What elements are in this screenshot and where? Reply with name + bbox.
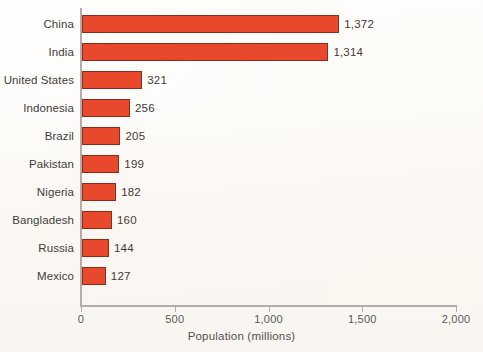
category-label: United States xyxy=(4,74,74,86)
x-axis-tick xyxy=(81,306,82,312)
bar-chart-plot-area: China1,372India1,314United States321Indo… xyxy=(0,0,483,352)
bar-value-label: 1,314 xyxy=(333,46,363,58)
bar-row: Bangladesh160 xyxy=(0,206,483,234)
bar xyxy=(82,267,106,285)
x-axis-tick xyxy=(456,306,457,312)
bar-row: China1,372 xyxy=(0,10,483,38)
bar xyxy=(82,99,130,117)
category-label: Bangladesh xyxy=(12,214,74,226)
bar xyxy=(82,183,116,201)
category-label: Brazil xyxy=(45,130,74,142)
x-axis-tick-label: 500 xyxy=(165,313,184,325)
x-axis-tick xyxy=(362,306,363,312)
x-axis-tick-label: 1,500 xyxy=(348,313,377,325)
category-label: India xyxy=(49,46,74,58)
chart-page: China1,372India1,314United States321Indo… xyxy=(0,0,483,352)
bar-value-label: 321 xyxy=(147,74,167,86)
bar-value-label: 144 xyxy=(114,242,134,254)
bar-value-label: 205 xyxy=(125,130,145,142)
bar xyxy=(82,127,120,145)
x-axis-tick-label: 2,000 xyxy=(442,313,471,325)
category-label: Indonesia xyxy=(23,102,74,114)
x-axis-tick-label: 0 xyxy=(78,313,84,325)
bar-row: India1,314 xyxy=(0,38,483,66)
category-label: China xyxy=(43,18,74,30)
x-axis-tick xyxy=(269,306,270,312)
bar-value-label: 127 xyxy=(111,270,131,282)
bar-row: Nigeria182 xyxy=(0,178,483,206)
bar-value-label: 182 xyxy=(121,186,141,198)
bar xyxy=(82,71,142,89)
bar xyxy=(82,211,112,229)
x-axis-tick xyxy=(175,306,176,312)
category-label: Russia xyxy=(38,242,74,254)
bar xyxy=(82,239,109,257)
category-label: Pakistan xyxy=(29,158,74,170)
bar xyxy=(82,15,339,33)
category-label: Mexico xyxy=(37,270,74,282)
bar xyxy=(82,155,119,173)
bar-value-label: 199 xyxy=(124,158,144,170)
bar-row: Indonesia256 xyxy=(0,94,483,122)
category-label: Nigeria xyxy=(37,186,74,198)
x-axis-title: Population (millions) xyxy=(0,330,483,342)
bar-row: United States321 xyxy=(0,66,483,94)
bar-row: Pakistan199 xyxy=(0,150,483,178)
x-axis-tick-label: 1,000 xyxy=(254,313,283,325)
bar-value-label: 256 xyxy=(135,102,155,114)
bar-value-label: 160 xyxy=(117,214,137,226)
bar-value-label: 1,372 xyxy=(344,18,374,30)
bar-row: Mexico127 xyxy=(0,262,483,290)
bar-row: Brazil205 xyxy=(0,122,483,150)
bar-row: Russia144 xyxy=(0,234,483,262)
bar xyxy=(82,43,328,61)
